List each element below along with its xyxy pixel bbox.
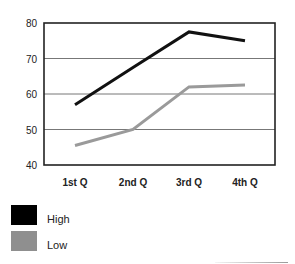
y-tick-label: 70 bbox=[26, 54, 38, 65]
legend-label-low: Low bbox=[47, 239, 67, 251]
y-tick-label: 40 bbox=[26, 160, 38, 171]
x-tick-label: 1st Q bbox=[62, 177, 87, 188]
gridlines bbox=[44, 59, 275, 130]
series-lines bbox=[75, 32, 245, 146]
x-tick-label: 4th Q bbox=[232, 177, 258, 188]
legend-swatch-low bbox=[11, 231, 37, 251]
y-tick-label: 50 bbox=[26, 125, 38, 136]
legend: High Low bbox=[11, 202, 70, 254]
legend-label-high: High bbox=[47, 213, 70, 225]
x-tick-label: 3rd Q bbox=[176, 177, 202, 188]
x-tick-label: 2nd Q bbox=[119, 177, 148, 188]
y-tick-label: 80 bbox=[26, 18, 38, 29]
bottom-divider bbox=[215, 262, 288, 263]
y-tick-label: 60 bbox=[26, 89, 38, 100]
legend-swatch-high bbox=[11, 205, 37, 225]
legend-item-high: High bbox=[11, 202, 70, 228]
legend-item-low: Low bbox=[11, 228, 70, 254]
x-axis-ticks: 1st Q2nd Q3rd Q4th Q bbox=[62, 177, 258, 188]
y-axis-ticks: 4050607080 bbox=[26, 18, 38, 171]
